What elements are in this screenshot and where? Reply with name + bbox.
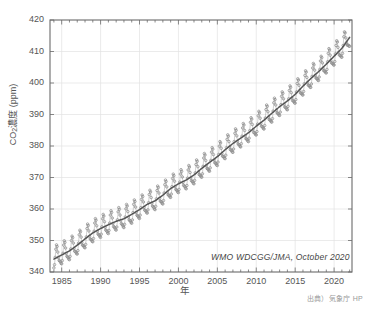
grid-lines: [50, 20, 352, 272]
x-tick-label: 2000: [160, 276, 196, 286]
y-tick-label: 370: [18, 172, 44, 182]
x-tick-label: 2010: [238, 276, 274, 286]
chart-plot-area: [0, 0, 369, 310]
y-axis-title-subscript: 2: [11, 128, 18, 132]
y-tick-label: 410: [18, 46, 44, 56]
y-tick-label: 420: [18, 14, 44, 24]
y-tick-label: 340: [18, 266, 44, 276]
chart-annotation: WMO WDCGG/JMA, October 2020: [211, 252, 350, 262]
y-tick-label: 380: [18, 140, 44, 150]
x-tick-label: 2020: [316, 276, 352, 286]
y-axis-title-species: CO: [8, 132, 18, 146]
x-tick-label: 2005: [199, 276, 235, 286]
y-tick-label: 350: [18, 235, 44, 245]
y-tick-label: 390: [18, 109, 44, 119]
y-axis-title: CO2濃度 (ppm): [6, 55, 19, 175]
source-note: 出典）気象庁 HP: [307, 293, 363, 303]
x-tick-label: 1990: [83, 276, 119, 286]
x-tick-label: 1985: [44, 276, 80, 286]
x-tick-label: 1995: [122, 276, 158, 286]
y-tick-label: 360: [18, 203, 44, 213]
data-layer: [53, 31, 351, 270]
y-tick-label: 400: [18, 77, 44, 87]
y-axis-title-rest: 濃度 (ppm): [8, 84, 18, 128]
co2-concentration-chart: CO2濃度 (ppm) 年 出典）気象庁 HP 3403503603703803…: [0, 0, 369, 310]
x-tick-label: 2015: [277, 276, 313, 286]
